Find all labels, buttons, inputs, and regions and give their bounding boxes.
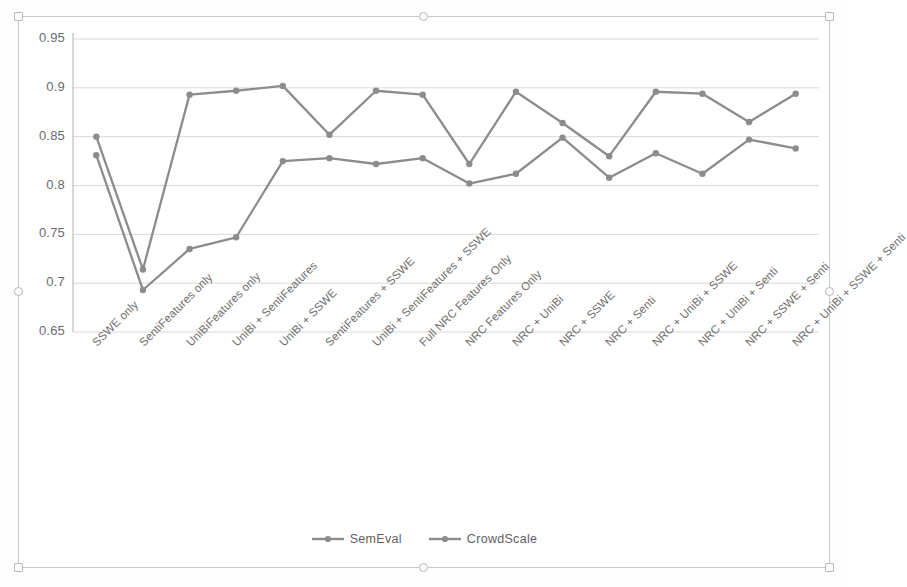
y-tick-label: 0.65 <box>19 323 65 338</box>
chart-legend: SemEval CrowdScale <box>19 532 829 546</box>
chart-object[interactable]: 0.950.90.850.80.750.70.65 SSWE onlySenti… <box>18 16 830 568</box>
data-point <box>373 161 379 167</box>
data-point <box>559 120 565 126</box>
data-point <box>653 89 659 95</box>
series-layer <box>93 83 799 294</box>
data-point <box>606 174 612 180</box>
data-point <box>373 88 379 94</box>
y-tick-label: 0.7 <box>19 274 65 289</box>
y-tick-label: 0.8 <box>19 177 65 192</box>
data-point <box>606 153 612 159</box>
data-point <box>280 83 286 89</box>
y-tick-label: 0.75 <box>19 225 65 240</box>
y-tick-label: 0.85 <box>19 128 65 143</box>
data-point <box>746 136 752 142</box>
data-point <box>513 89 519 95</box>
data-point <box>699 90 705 96</box>
y-tick-label: 0.95 <box>19 30 65 45</box>
data-point <box>792 145 798 151</box>
data-point <box>140 266 146 272</box>
data-point <box>513 171 519 177</box>
legend-label-crowdscale: CrowdScale <box>467 532 537 546</box>
data-point <box>466 180 472 186</box>
data-point <box>140 287 146 293</box>
legend-marker-crowdscale <box>428 534 462 544</box>
data-point <box>419 155 425 161</box>
data-point <box>419 91 425 97</box>
data-point <box>93 152 99 158</box>
legend-item-crowdscale[interactable]: CrowdScale <box>428 532 537 546</box>
data-point <box>280 158 286 164</box>
data-point <box>326 132 332 138</box>
data-point <box>653 150 659 156</box>
data-point <box>233 88 239 94</box>
data-point <box>699 171 705 177</box>
data-point <box>93 133 99 139</box>
series-crowdscale <box>93 83 799 273</box>
data-point <box>559 134 565 140</box>
data-point <box>466 161 472 167</box>
series-line <box>96 86 795 270</box>
legend-marker-semeval <box>311 534 345 544</box>
data-point <box>186 91 192 97</box>
legend-label-semeval: SemEval <box>350 532 402 546</box>
y-tick-label: 0.9 <box>19 79 65 94</box>
legend-item-semeval[interactable]: SemEval <box>311 532 402 546</box>
data-point <box>326 155 332 161</box>
data-point <box>186 246 192 252</box>
data-point <box>792 90 798 96</box>
data-point <box>746 119 752 125</box>
data-point <box>233 234 239 240</box>
